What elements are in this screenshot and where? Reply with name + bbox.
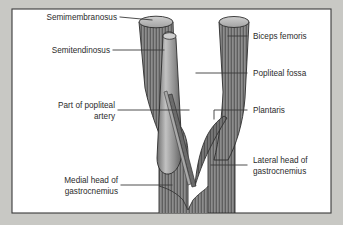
- semitendinosus-cut-end: [163, 33, 176, 40]
- anatomical-figure: Semimembranosus Semitendinosus Part of p…: [0, 0, 343, 225]
- biceps-femoris-cut-end: [219, 17, 249, 28]
- label-medial-gastrocnemius-line1: Medial head of: [64, 176, 118, 185]
- label-plantaris: Plantaris: [253, 106, 285, 115]
- label-lateral-gastrocnemius-line1: Lateral head of: [253, 156, 308, 165]
- label-biceps-femoris: Biceps femoris: [253, 32, 307, 41]
- label-medial-gastrocnemius-line2: gastrocnemius: [65, 187, 118, 196]
- label-popliteal-artery-line1: Part of popliteal: [58, 101, 115, 110]
- label-popliteal-artery-line2: artery: [94, 112, 116, 121]
- label-popliteal-fossa: Popliteal fossa: [253, 69, 307, 78]
- label-lateral-gastrocnemius-line2: gastrocnemius: [253, 167, 306, 176]
- semimembranosus-cut-end: [139, 16, 173, 28]
- label-semitendinosus: Semitendinosus: [52, 46, 110, 55]
- label-semimembranosus: Semimembranosus: [46, 13, 117, 22]
